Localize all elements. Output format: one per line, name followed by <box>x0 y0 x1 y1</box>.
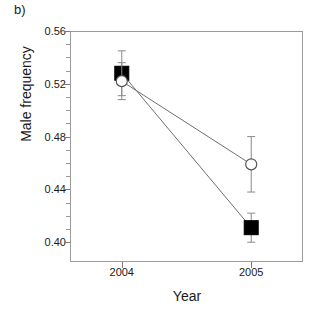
marker-open-circle <box>246 159 257 170</box>
marker-filled-square <box>244 221 258 235</box>
marker-open-circle <box>116 76 127 87</box>
series-line <box>122 81 251 164</box>
data-series-layer <box>0 0 315 314</box>
series-line <box>122 73 251 228</box>
figure-panel-b: b) Male frequency Year 0.400.440.480.520… <box>0 0 315 314</box>
